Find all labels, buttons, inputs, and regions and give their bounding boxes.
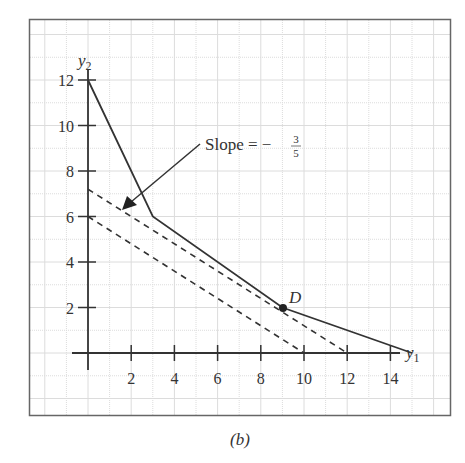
x-tick-label: 8 xyxy=(257,370,265,387)
y-tick-label: 10 xyxy=(58,118,74,135)
x-tick-label: 4 xyxy=(170,370,178,387)
figure-caption: (b) xyxy=(230,430,250,449)
chart-figure: 2468101214 24681012 y2 y1 D Slope = − 3 … xyxy=(0,0,465,463)
x-tick-label: 10 xyxy=(296,370,312,387)
slope-label: Slope = − xyxy=(205,135,271,154)
x-axis-ticks: 2468101214 xyxy=(127,345,398,387)
point-d-marker xyxy=(279,304,287,312)
x-tick-label: 2 xyxy=(127,370,135,387)
slope-arrow xyxy=(131,144,200,202)
point-d-label: D xyxy=(288,288,302,307)
y-tick-label: 8 xyxy=(66,163,74,180)
slope-denominator: 5 xyxy=(293,147,299,159)
y-tick-label: 4 xyxy=(66,254,74,271)
slope-numerator: 3 xyxy=(293,133,299,145)
x-tick-label: 12 xyxy=(339,370,355,387)
y-tick-label: 6 xyxy=(66,209,74,226)
x-tick-label: 6 xyxy=(214,370,222,387)
y-tick-label: 2 xyxy=(66,300,74,317)
x-axis-label: y1 xyxy=(404,343,420,365)
y-axis-label: y2 xyxy=(76,51,92,73)
x-tick-label: 14 xyxy=(382,370,398,387)
plot-frame xyxy=(30,20,451,416)
y-tick-label: 12 xyxy=(58,72,74,89)
